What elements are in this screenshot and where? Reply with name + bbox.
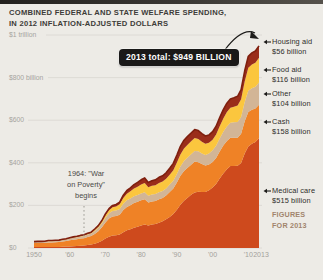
legend-label: Medical care xyxy=(272,186,315,196)
legend-item-other: Other$104 billion xyxy=(272,89,311,109)
legend-item-medical-care: Medical care$515 billion xyxy=(272,186,315,206)
x-axis-label-1970: '70 xyxy=(101,251,110,258)
legend-arrow-head-3 xyxy=(264,120,268,124)
legend-value: $56 billion xyxy=(272,47,312,57)
war-on-poverty-annotation: 1964: "War on Poverty" begins xyxy=(48,169,124,201)
y-axis-label-800: $800 billion xyxy=(9,74,43,81)
legend-arrow-head-1 xyxy=(264,68,268,72)
x-axis-label-1980: '80 xyxy=(137,251,146,258)
x-axis-label-1960: '60 xyxy=(65,251,74,258)
y-axis-label-200: $200 xyxy=(9,201,24,208)
legend-item-housing-aid: Housing aid$56 billion xyxy=(272,37,312,57)
y-axis-label-0: $0 xyxy=(9,244,17,251)
legend-value: $515 billion xyxy=(272,196,315,206)
legend-label: Other xyxy=(272,89,311,99)
y-axis-label-600: $600 xyxy=(9,116,24,123)
figures-note-line1: FIGURES xyxy=(272,210,307,221)
legend-value: $104 billion xyxy=(272,99,311,109)
figures-for-2013-note: FIGURES FOR 2013 xyxy=(272,210,307,231)
annotation-line3: begins xyxy=(48,191,124,202)
legend-arrow-head-0 xyxy=(264,40,268,44)
y-axis-label-400: $400 xyxy=(9,159,24,166)
y-axis-label-1000: $1 trillion xyxy=(9,31,36,38)
legend-label: Housing aid xyxy=(272,37,312,47)
x-axis-label-1990: '90 xyxy=(172,251,181,258)
total-callout-badge: 2013 total: $949 BILLION xyxy=(119,49,239,66)
annotation-line2: on Poverty" xyxy=(48,180,124,191)
welfare-spending-chart-page: COMBINED FEDERAL AND STATE WELFARE SPEND… xyxy=(0,0,323,280)
figures-note-line2: FOR 2013 xyxy=(272,221,307,232)
legend-label: Cash xyxy=(272,117,311,127)
legend-item-food-aid: Food aid$116 billion xyxy=(272,65,310,85)
legend-value: $158 billion xyxy=(272,127,311,137)
legend-arrow-head-2 xyxy=(264,92,268,96)
legend-value: $116 billion xyxy=(272,75,310,85)
annotation-line1: 1964: "War xyxy=(48,169,124,180)
x-axis-label-2010: '10 xyxy=(244,251,253,258)
legend-label: Food aid xyxy=(272,65,310,75)
legend-arrow-head-4 xyxy=(264,189,268,193)
x-axis-label-2000: '00 xyxy=(208,251,217,258)
x-axis-label-2013: 2013 xyxy=(253,251,269,258)
legend-item-cash: Cash$158 billion xyxy=(272,117,311,137)
x-axis-label-1950: 1950 xyxy=(26,251,42,258)
